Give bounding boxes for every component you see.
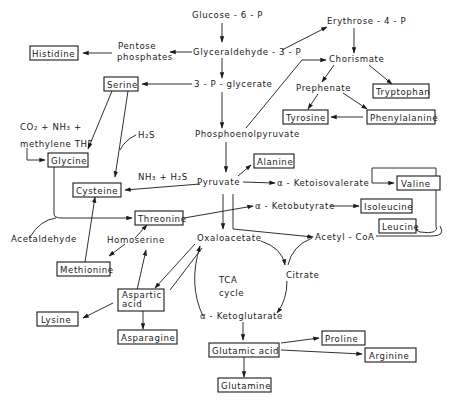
arrow-chorismate-to-tryptophan xyxy=(369,65,392,84)
cysteine-label: Cysteine xyxy=(76,186,118,196)
asparagine-label: Asparagine xyxy=(121,333,175,343)
threonine-label: Threonine xyxy=(137,214,187,224)
isoleucine-label: Isoleucine xyxy=(364,202,413,212)
glutamine-label: Glutamine xyxy=(221,381,271,391)
arrow-citrate-to-ketoglutarate xyxy=(277,281,287,313)
arrow-glutamic-to-proline xyxy=(281,338,319,343)
lysine-label: Lysine xyxy=(41,315,71,325)
homoserine-label: Homoserine xyxy=(107,235,165,245)
arrow-oxaloacetate-to-aspartic xyxy=(155,244,195,288)
arrow-thf-to-glycine xyxy=(27,148,45,160)
arginine-label: Arginine xyxy=(369,351,409,361)
cycle-label: cycle xyxy=(219,288,244,298)
nh3-h2s-label: NH₃ + H₂S xyxy=(138,172,188,182)
acetaldehyde-label: Acetaldehyde xyxy=(11,234,77,244)
amino-acid-labels: Histidine Serine Tryptophan Tyrosine Phe… xyxy=(32,49,438,391)
h2s-label: H₂S xyxy=(138,130,155,140)
co2-nh3-label: CO₂ + NH₃ + xyxy=(20,122,82,132)
tca-label: TCA xyxy=(218,275,237,285)
pentose-label: Pentose xyxy=(118,41,156,51)
pathway-diagram: Glucose - 6 - P Erythrose - 4 - P Pentos… xyxy=(0,0,455,406)
ketoisovalerate-label: α - Ketoisovalerate xyxy=(277,178,369,188)
arrow-serine-to-cysteine xyxy=(115,91,128,177)
valine-label: Valine xyxy=(401,179,431,189)
phosphoenolpyruvate-label: Phosphoenolpyruvate xyxy=(195,129,300,139)
arrow-prephenate-to-tyrosine xyxy=(308,94,318,109)
phosphates-label: phosphates xyxy=(117,52,173,62)
arrow-glutamic-to-arginine xyxy=(281,350,362,354)
acetyl-coa-label: Acetyl - CoA xyxy=(315,232,374,242)
arrow-pyruvate-to-ketoisovalerate xyxy=(243,182,275,183)
arrow-threonine-to-ketobutyrate xyxy=(184,206,253,218)
prephenate-label: Prephenate xyxy=(296,83,351,93)
arrow-prephenate-to-phenylalanine xyxy=(343,93,367,109)
glyceraldehyde-3-p-label: Glyceraldehyde - 3 - P xyxy=(193,47,301,57)
chorismate-label: Chorismate xyxy=(329,54,384,64)
arc-acetylcoa-to-citrate xyxy=(288,238,312,265)
arrow-chorismate-to-prephenate xyxy=(322,65,334,82)
ketobutyrate-label: α - Ketobutyrate xyxy=(255,201,335,211)
phenylalanine-label: Phenylalanine xyxy=(370,113,438,123)
arrow-aspartic-to-lysine xyxy=(83,303,113,318)
oxaloacetate-label: Oxaloacetate xyxy=(197,233,262,243)
ketoglutarate-label: α - Ketoglutarate xyxy=(200,311,283,321)
citrate-label: Citrate xyxy=(286,270,319,280)
alanine-label: Alanine xyxy=(257,157,293,167)
leucine-label: Leucine xyxy=(382,222,419,232)
arrow-homoserine-to-methionine xyxy=(109,244,125,256)
tryptophan-label: Tryptophan xyxy=(375,87,430,97)
proline-label: Proline xyxy=(325,334,358,344)
glycine-label: Glycine xyxy=(51,156,87,166)
erythrose-4-p-label: Erythrose - 4 - P xyxy=(327,16,406,26)
arrow-pyruvate-to-cysteine xyxy=(125,184,200,190)
arrow-methionine-to-cysteine xyxy=(85,197,95,262)
h2s-connector xyxy=(120,135,136,150)
cofactor-labels: CO₂ + NH₃ + methylene THF H₂S NH₃ + H₂S xyxy=(20,122,188,182)
pyruvate-label: Pyruvate xyxy=(197,177,240,187)
3-p-glycerate-label: 3 - P - glycerate xyxy=(194,79,272,89)
diagram-canvas: Glucose - 6 - P Erythrose - 4 - P Pentos… xyxy=(0,0,455,406)
glutamic-acid-label: Glutamic acid xyxy=(212,346,279,356)
methionine-label: Methionine xyxy=(60,265,114,275)
arrow-pyruvate-to-alanine xyxy=(238,165,251,176)
arrow-oxaloacetate-to-citrate xyxy=(261,241,285,265)
methylene-thf-label: methylene THF xyxy=(20,139,93,149)
histidine-label: Histidine xyxy=(32,49,75,59)
arrow-aspartic-to-homoserine xyxy=(137,250,146,290)
glucose-6-p-label: Glucose - 6 - P xyxy=(192,10,263,20)
serine-label: Serine xyxy=(107,80,138,90)
acid-label: acid xyxy=(122,299,142,309)
tyrosine-label: Tyrosine xyxy=(285,113,326,123)
